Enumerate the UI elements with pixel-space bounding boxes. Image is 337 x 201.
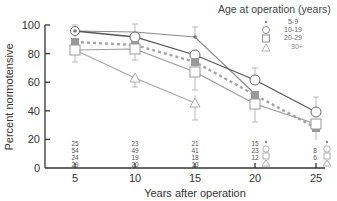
n-15-c: 18 bbox=[191, 154, 199, 161]
x-tick-15: 15 bbox=[189, 172, 201, 184]
y-tick-40: 40 bbox=[28, 105, 40, 117]
error-bars bbox=[72, 24, 319, 140]
n-5-a: 25 bbox=[71, 140, 79, 147]
n-15-d: 13 bbox=[191, 161, 199, 168]
x-tick-10: 10 bbox=[129, 172, 141, 184]
x-tick-25: 25 bbox=[310, 172, 322, 184]
n-5-c: 24 bbox=[71, 154, 79, 161]
n-10-d: 20 bbox=[131, 161, 139, 168]
n-15-b: 41 bbox=[191, 147, 199, 154]
n-20-a: 15 bbox=[251, 140, 259, 147]
sample-sizes: 25 54 24 29 23 49 19 20 21 41 18 13 15 2… bbox=[71, 140, 317, 168]
n-5-d: 29 bbox=[71, 161, 79, 168]
n-25-b: 6 bbox=[313, 154, 317, 161]
legend-label-10-19: 10-19 bbox=[284, 26, 302, 33]
markers bbox=[70, 27, 321, 133]
axes bbox=[45, 25, 325, 168]
x-tick-5: 5 bbox=[72, 172, 78, 184]
y-tick-80: 80 bbox=[28, 48, 40, 60]
y-tick-0: 0 bbox=[34, 162, 40, 174]
y-tick-20: 20 bbox=[28, 133, 40, 145]
n-20-b: 23 bbox=[251, 147, 259, 154]
legend-title: Age at operation (years) bbox=[218, 3, 331, 15]
n-10-c: 19 bbox=[131, 154, 139, 161]
legend-dot-icon bbox=[265, 21, 268, 24]
n-10-b: 49 bbox=[131, 147, 139, 154]
x-tick-labels: 5 10 15 20 25 bbox=[72, 172, 322, 184]
y-tick-100: 100 bbox=[22, 19, 40, 31]
n-15-a: 21 bbox=[191, 140, 199, 147]
legend: Age at operation (years) 5-9 10-19 20-29… bbox=[218, 3, 331, 51]
n-25-a: 8 bbox=[313, 147, 317, 154]
n-20-c: 12 bbox=[251, 154, 259, 161]
line-chart: 100 80 60 40 20 0 5 10 15 20 25 Years af… bbox=[0, 0, 337, 201]
x-tick-20: 20 bbox=[249, 172, 261, 184]
legend-label-30plus: 30+ bbox=[291, 43, 303, 50]
count-symbols bbox=[262, 141, 331, 166]
legend-label-20-29: 20-29 bbox=[284, 34, 302, 41]
x-axis-label: Years after operation bbox=[144, 187, 246, 199]
legend-circle-icon bbox=[263, 27, 270, 34]
y-tick-60: 60 bbox=[28, 76, 40, 88]
y-tick-labels: 100 80 60 40 20 0 bbox=[22, 19, 40, 174]
n-5-b: 54 bbox=[71, 147, 79, 154]
legend-label-5-9: 5-9 bbox=[288, 18, 298, 25]
n-10-a: 23 bbox=[131, 140, 139, 147]
legend-triangle-icon bbox=[262, 44, 270, 51]
legend-square-icon bbox=[263, 35, 270, 42]
y-axis-label: Percent normotensive bbox=[3, 44, 15, 151]
